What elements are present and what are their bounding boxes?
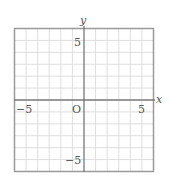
x-axis-label: x [156,93,163,106]
y-tick-label-neg5: −5 [65,154,81,167]
origin-label: O [72,103,81,116]
x-tick-label-pos5: 5 [138,103,145,116]
coordinate-plane-svg: x y O −5 5 5 −5 [0,0,170,179]
x-tick-label-neg5: −5 [16,103,32,116]
coordinate-plane: x y O −5 5 5 −5 [0,0,170,179]
y-tick-label-pos5: 5 [74,36,81,49]
y-axis-label: y [79,14,87,27]
